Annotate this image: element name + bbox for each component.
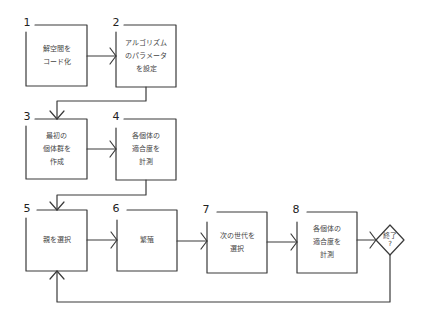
arrow-2-to-3 xyxy=(57,87,146,119)
arrow-4-to-5 xyxy=(57,180,146,210)
step-5-label: 親を選択 xyxy=(26,210,87,271)
step-6-label: 繁殖 xyxy=(117,210,177,271)
step-7-label: 次の世代を 選択 xyxy=(207,212,267,273)
step-2-label: アルゴリズム のパラメータ を設定 xyxy=(116,25,176,87)
decision-label: 終了 ? xyxy=(376,232,404,248)
genetic-algorithm-flowchart: 1 2 3 4 5 6 7 8 解空間を コード化 アルゴリズム のパラメータ … xyxy=(0,0,422,324)
step-3-label: 最初の 個体群を 作成 xyxy=(26,119,87,179)
step-8-label: 各個体の 適合度を 計測 xyxy=(297,212,357,273)
step-1-label: 解空間を コード化 xyxy=(26,25,87,86)
step-4-label: 各個体の 適合度を 計測 xyxy=(116,119,176,180)
